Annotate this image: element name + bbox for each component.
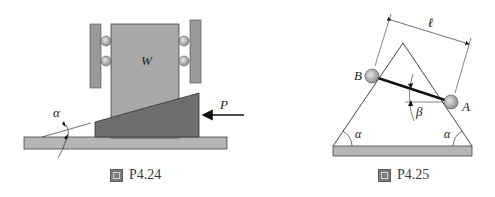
ball-a [444,95,458,109]
caption-p4-24: P4.24 [110,167,161,183]
right-angle-arc [453,131,462,146]
left-angle-label: α [355,127,362,141]
weight-label: W [141,53,153,68]
caption-p4-25: P4.25 [378,167,429,183]
ground [24,137,227,149]
angle-extension-line [42,123,91,137]
dim-ext-right [455,38,471,93]
point-b-label: B [354,68,362,83]
triangle-support [333,43,472,146]
dim-ext-left [375,14,391,66]
figure-p4-24: α W P [24,20,244,158]
ball-b [365,69,379,83]
figure-icon [110,169,123,182]
caption-label: P4.25 [397,167,429,183]
figure-p4-25: α α ℓ B A β [333,14,472,156]
figure-icon [378,169,391,182]
roller-left-top [101,36,111,46]
ground [333,146,472,156]
right-angle-label: α [444,127,451,141]
angle-beta-arc [409,74,414,121]
point-a-label: A [461,99,470,114]
angle-beta-label: β [415,104,423,119]
force-p-label: P [219,97,228,112]
right-wall [190,20,201,83]
angle-alpha-label: α [53,105,61,120]
roller-left-bottom [101,56,111,66]
left-wall [90,24,101,88]
roller-right-bottom [179,56,189,66]
caption-label: P4.24 [129,167,161,183]
roller-right-top [179,36,189,46]
left-angle-arc [343,131,352,146]
length-label: ℓ [428,15,434,30]
